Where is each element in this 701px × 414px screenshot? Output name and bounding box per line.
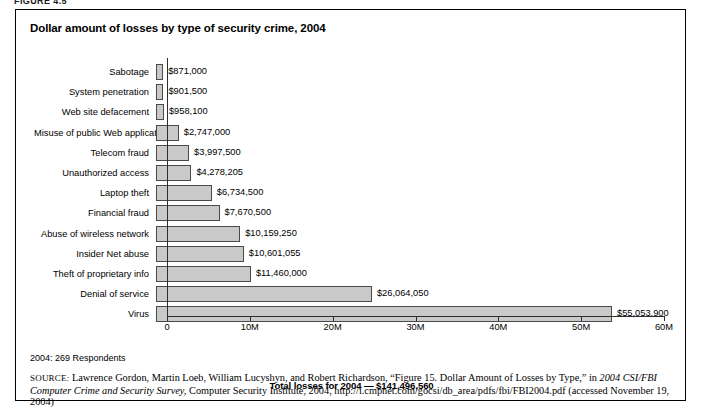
bar-category-label: Abuse of wireless network	[34, 229, 156, 239]
respondents-note: 2004: 269 Respondents	[30, 353, 126, 363]
page-title: Dollar amount of losses by type of secur…	[30, 22, 326, 34]
x-axis: 010M20M30M40M50M60M	[34, 316, 669, 356]
bar-track: $10,601,055	[156, 246, 669, 262]
bar-category-label: Unauthorized access	[34, 168, 156, 178]
bar-track: $871,000	[156, 64, 669, 80]
bar	[156, 266, 251, 282]
bar-category-label: Insider Net abuse	[34, 249, 156, 259]
bar-category-label: Theft of proprietary info	[34, 269, 156, 279]
bar	[156, 246, 244, 262]
x-axis-tick	[250, 316, 251, 321]
bar-row: Unauthorized access$4,278,205	[34, 165, 669, 181]
bar-row: Denial of service$26,064,050	[34, 286, 669, 302]
bar-row: Web site defacement$958,100	[34, 104, 669, 120]
bar-value-label: $901,500	[168, 86, 207, 97]
x-axis-tick-label: 0	[164, 322, 169, 333]
bar-value-label: $10,601,055	[249, 248, 301, 259]
bar-value-label: $958,100	[169, 106, 208, 117]
bar-row: Telecom fraud$3,997,500	[34, 145, 669, 161]
bar	[156, 226, 240, 242]
bar	[156, 64, 163, 80]
bar-row: Financial fraud$7,670,500	[34, 205, 669, 221]
bar	[156, 84, 163, 100]
bar-category-label: Misuse of public Web application	[34, 128, 156, 138]
x-axis-tick-label: 20M	[324, 322, 342, 333]
bar	[156, 145, 189, 161]
y-axis-line	[167, 58, 168, 316]
bar-chart: Sabotage$871,000System penetration$901,5…	[16, 58, 687, 333]
x-axis-tick-label: 30M	[406, 322, 424, 333]
bar-track: $4,278,205	[156, 165, 669, 181]
bar-value-label: $11,460,000	[256, 268, 307, 279]
bar-category-label: Telecom fraud	[34, 148, 156, 158]
bar-rows-container: Sabotage$871,000System penetration$901,5…	[34, 64, 669, 326]
bar-track: $10,159,250	[156, 226, 669, 242]
bar-track: $2,747,000	[156, 125, 669, 141]
x-axis-tick	[498, 316, 499, 321]
page-figure-number: FIGURE 4.5	[14, 0, 67, 8]
bar-track: $26,064,050	[156, 286, 669, 302]
bar	[156, 205, 220, 221]
bar-row: Insider Net abuse$10,601,055	[34, 246, 669, 262]
bar-track: $901,500	[156, 84, 669, 100]
bar-category-label: Financial fraud	[34, 208, 156, 218]
bar-value-label: $10,159,250	[245, 228, 297, 239]
x-axis-tick	[416, 316, 417, 321]
x-axis-tick-label: 40M	[489, 322, 507, 333]
bar-category-label: Web site defacement	[34, 107, 156, 117]
bar-row: Sabotage$871,000	[34, 64, 669, 80]
bar-track: $3,997,500	[156, 145, 669, 161]
bar-category-label: Sabotage	[34, 67, 156, 77]
bar-value-label: $2,747,000	[184, 127, 231, 138]
bar-row: Abuse of wireless network$10,159,250	[34, 226, 669, 242]
bar-row: Laptop theft$6,734,500	[34, 185, 669, 201]
bar-value-label: $7,670,500	[225, 207, 272, 218]
bar-row: Misuse of public Web application$2,747,0…	[34, 125, 669, 141]
bar	[156, 104, 164, 120]
bar	[156, 286, 372, 302]
bar	[156, 185, 212, 201]
x-axis-tick-label: 60M	[655, 322, 673, 333]
bar	[156, 165, 191, 181]
source-note: SOURCE: Lawrence Gordon, Martin Loeb, Wi…	[30, 372, 676, 408]
bar-value-label: $26,064,050	[377, 288, 429, 299]
bar-row: System penetration$901,500	[34, 84, 669, 100]
page-figure-number-text: FIGURE 4.5	[14, 0, 67, 6]
bar-track: $7,670,500	[156, 205, 669, 221]
bar-track: $11,460,000	[156, 266, 669, 282]
source-label: SOURCE:	[30, 373, 69, 383]
bar-track: $958,100	[156, 104, 669, 120]
figure-box: Dollar amount of losses by type of secur…	[15, 9, 686, 401]
x-axis-tick	[664, 316, 665, 321]
bar-track: $6,734,500	[156, 185, 669, 201]
x-axis-tick-label: 10M	[241, 322, 259, 333]
x-axis-tick-label: 50M	[572, 322, 590, 333]
bar-value-label: $4,278,205	[196, 167, 243, 178]
bar-row: Theft of proprietary info$11,460,000	[34, 266, 669, 282]
x-axis-tick	[167, 316, 168, 321]
bar-value-label: $6,734,500	[217, 187, 264, 198]
bar-category-label: Denial of service	[34, 289, 156, 299]
x-axis-tick	[333, 316, 334, 321]
bar-value-label: $3,997,500	[194, 147, 241, 158]
bar-category-label: System penetration	[34, 87, 156, 97]
x-axis-tick	[581, 316, 582, 321]
bar-category-label: Laptop theft	[34, 188, 156, 198]
bar-value-label: $871,000	[168, 66, 207, 77]
source-text-1: Lawrence Gordon, Martin Loeb, William Lu…	[69, 372, 599, 383]
